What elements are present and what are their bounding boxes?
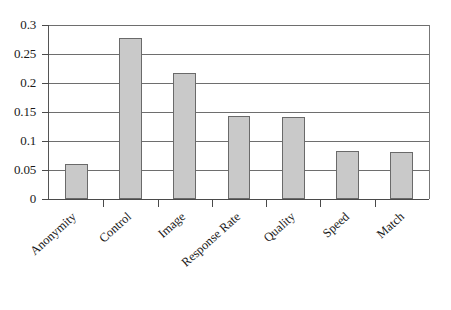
bar: [282, 117, 305, 199]
x-axis-label-slot: Speed: [321, 199, 376, 310]
x-axis-label-text: Speed: [320, 210, 352, 241]
x-axis-label-slot: Anonymity: [48, 199, 103, 310]
y-axis-tick: 0.2: [42, 83, 49, 84]
bar-slot: [158, 25, 212, 199]
x-axis-label-slot: Match: [375, 199, 430, 310]
y-axis-tick: 0.1: [42, 141, 49, 142]
x-axis-label-slot: Control: [103, 199, 158, 310]
x-axis-label-text: Anonymity: [28, 210, 80, 259]
y-axis-tick: 0.3: [42, 25, 49, 26]
x-axis-label-text: Quality: [260, 210, 297, 245]
bar: [336, 151, 359, 199]
y-axis-tick-label: 0.2: [20, 75, 36, 91]
x-axis-label-slot: Quality: [266, 199, 321, 310]
y-axis-tick-label: 0.05: [14, 162, 36, 178]
bar: [173, 73, 196, 199]
y-axis-tick: 0.05: [42, 170, 49, 171]
bar: [65, 164, 88, 199]
x-axis-label-text: Match: [374, 210, 407, 242]
x-axis-label-text: Control: [96, 210, 134, 246]
x-axis-label-slot: Response Rate: [212, 199, 267, 310]
y-axis-tick-label: 0: [30, 191, 36, 207]
bar-slot: [375, 25, 429, 199]
plot-area: 00.050.10.150.20.250.3: [48, 25, 430, 199]
bar-slot: [212, 25, 266, 199]
y-axis-tick-label: 0.1: [20, 133, 36, 149]
x-axis-label-text: Image: [156, 210, 189, 241]
y-axis-tick: 0.15: [42, 112, 49, 113]
y-axis-tick-label: 0.25: [14, 46, 36, 62]
bar-slot: [320, 25, 374, 199]
y-axis-tick: 0.25: [42, 54, 49, 55]
bar: [390, 152, 413, 199]
bar: [228, 116, 251, 199]
bar-chart: 00.050.10.150.20.250.3 AnonymityControlI…: [0, 0, 451, 310]
bar: [119, 38, 142, 199]
bar-slot: [49, 25, 103, 199]
y-axis-tick-label: 0.3: [20, 17, 36, 33]
x-axis-labels: AnonymityControlImageResponse RateQualit…: [48, 199, 430, 310]
y-axis-tick-label: 0.15: [14, 104, 36, 120]
